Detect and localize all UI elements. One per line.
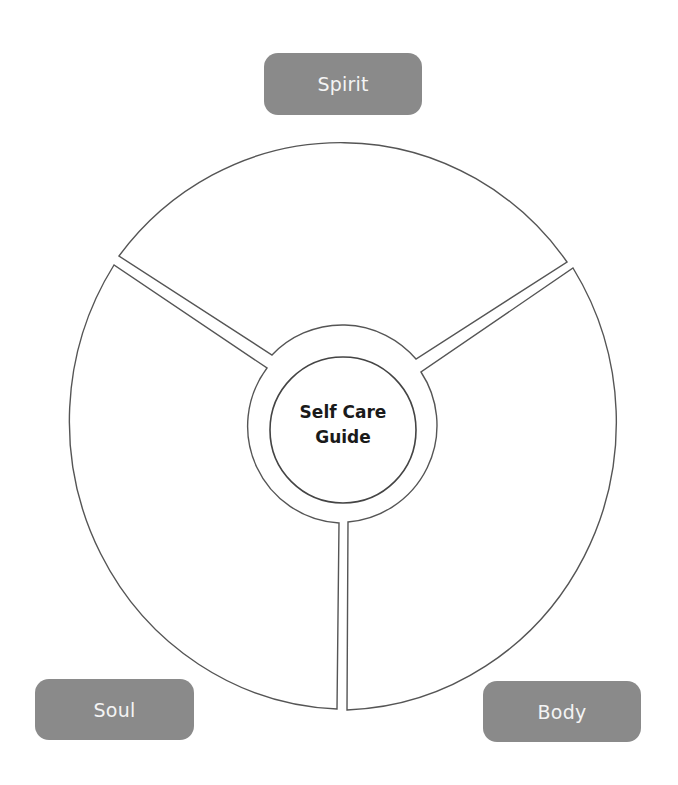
- center-title-line1: Self Care: [270, 400, 416, 425]
- center-title-line2: Guide: [270, 425, 416, 450]
- center-title: Self Care Guide: [270, 400, 416, 450]
- label-spirit-text: Spirit: [317, 73, 368, 95]
- label-soul-text: Soul: [94, 699, 136, 721]
- label-body: Body: [483, 681, 641, 742]
- label-spirit: Spirit: [264, 53, 422, 115]
- label-body-text: Body: [538, 701, 587, 723]
- self-care-wheel: [0, 0, 678, 785]
- label-soul: Soul: [35, 679, 194, 740]
